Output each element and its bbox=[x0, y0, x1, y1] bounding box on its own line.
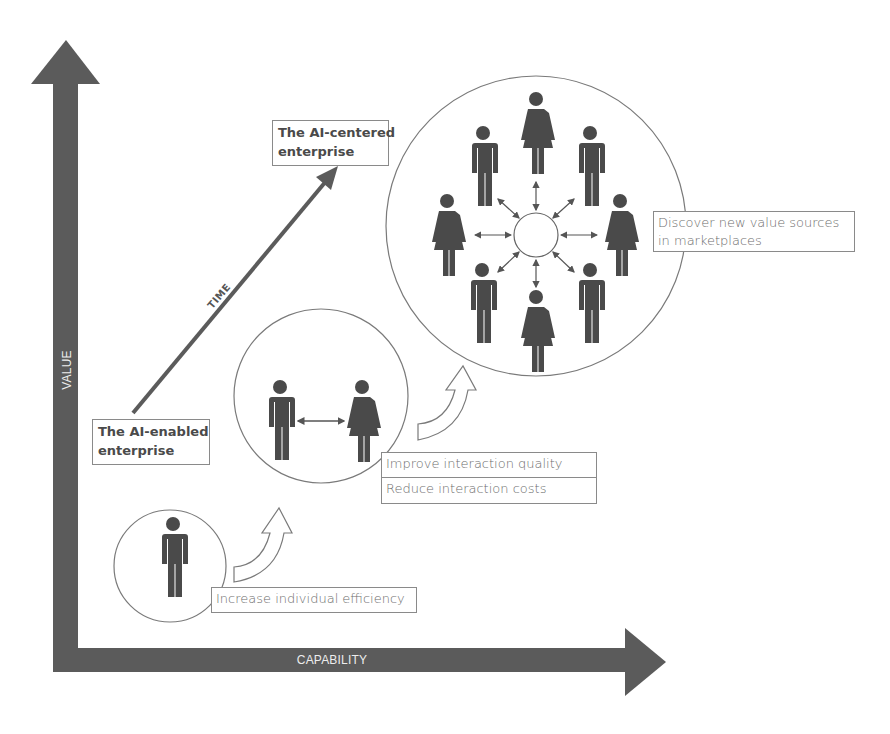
improve-quality-caption: Improve interaction quality bbox=[381, 452, 597, 478]
ai-centered-line1: The AI-centered bbox=[278, 124, 383, 143]
ai-enabled-line2: enterprise bbox=[98, 442, 204, 461]
transition-arrow-2 bbox=[418, 366, 476, 440]
ai-centered-line2: enterprise bbox=[278, 143, 383, 162]
capability-axis-label: CAPABILITY bbox=[297, 653, 367, 667]
ai-enabled-enterprise-box: The AI-enabled enterprise bbox=[92, 419, 210, 465]
marketplace-caption-line2: in marketplaces bbox=[658, 232, 850, 250]
transition-arrow-1 bbox=[234, 508, 292, 582]
marketplace-caption-line1: Discover new value sources bbox=[658, 214, 850, 232]
hub-circle bbox=[514, 213, 558, 257]
improve-quality-text: Improve interaction quality bbox=[386, 456, 563, 471]
value-axis-label: VALUE bbox=[60, 350, 74, 389]
marketplace-circle bbox=[386, 76, 686, 376]
individual-circle bbox=[114, 510, 226, 622]
reduce-costs-text: Reduce interaction costs bbox=[386, 481, 546, 496]
individual-efficiency-text: Increase individual efficiency bbox=[216, 591, 405, 606]
reduce-costs-caption: Reduce interaction costs bbox=[381, 477, 597, 504]
ai-enterprise-evolution-diagram: VALUE CAPABILITY TIME The AI-centered en… bbox=[0, 0, 890, 734]
marketplace-caption: Discover new value sources in marketplac… bbox=[653, 211, 855, 252]
individual-efficiency-caption: Increase individual efficiency bbox=[211, 587, 417, 613]
ai-centered-enterprise-box: The AI-centered enterprise bbox=[272, 120, 389, 166]
ai-enabled-line1: The AI-enabled bbox=[98, 423, 204, 442]
